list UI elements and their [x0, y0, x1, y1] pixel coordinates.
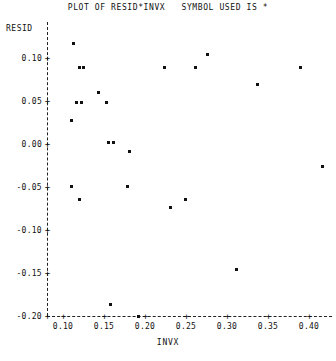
x-tick-mark: +: [264, 312, 273, 321]
data-point: [169, 206, 172, 209]
x-tick-label: 0.40: [289, 322, 329, 331]
y-tick-label: -0.20: [0, 312, 42, 321]
data-point: [163, 66, 166, 69]
y-tick-mark: +: [43, 97, 52, 106]
data-point: [78, 198, 81, 201]
x-tick-label: 0.35: [248, 322, 288, 331]
y-tick-mark: +: [43, 312, 52, 321]
x-tick-mark: +: [100, 312, 109, 321]
x-axis-title: INVX: [0, 338, 336, 347]
y-tick-label: -0.15: [0, 269, 42, 278]
x-tick-mark: +: [223, 312, 232, 321]
y-tick-mark: +: [43, 140, 52, 149]
x-tick-label: 0.20: [125, 322, 165, 331]
scatter-plot: PLOT OF RESID*INVX SYMBOL USED IS * RESI…: [0, 0, 336, 361]
data-point: [206, 53, 209, 56]
data-point: [80, 101, 83, 104]
data-point: [82, 66, 85, 69]
data-point: [126, 185, 129, 188]
y-tick-label: 0.00: [0, 140, 42, 149]
x-tick-label: 0.25: [166, 322, 206, 331]
x-tick-mark: +: [182, 312, 191, 321]
data-point: [321, 165, 324, 168]
data-point: [184, 198, 187, 201]
x-tick-mark: +: [59, 312, 68, 321]
x-tick-label: 0.15: [84, 322, 124, 331]
data-point: [299, 66, 302, 69]
x-tick-mark: +: [141, 312, 150, 321]
data-point: [75, 101, 78, 104]
data-point: [70, 185, 73, 188]
data-point: [194, 66, 197, 69]
y-tick-mark: +: [43, 269, 52, 278]
data-point: [128, 150, 131, 153]
data-point: [109, 303, 112, 306]
plot-title: PLOT OF RESID*INVX SYMBOL USED IS *: [0, 3, 336, 12]
y-tick-mark: +: [43, 183, 52, 192]
y-tick-label: 0.10: [0, 54, 42, 63]
y-tick-mark: +: [43, 54, 52, 63]
data-point: [105, 101, 108, 104]
data-point: [72, 42, 75, 45]
data-point: [97, 91, 100, 94]
y-tick-mark: +: [43, 226, 52, 235]
y-tick-label: -0.05: [0, 183, 42, 192]
data-point: [256, 83, 259, 86]
x-tick-mark: +: [305, 312, 314, 321]
y-axis-title: RESID: [6, 24, 33, 33]
data-point: [107, 141, 110, 144]
data-point: [235, 268, 238, 271]
y-tick-label: -0.10: [0, 226, 42, 235]
x-tick-label: 0.10: [43, 322, 83, 331]
x-tick-label: 0.30: [207, 322, 247, 331]
data-point: [137, 315, 140, 318]
data-point: [70, 119, 73, 122]
data-point: [112, 141, 115, 144]
y-tick-label: 0.05: [0, 97, 42, 106]
